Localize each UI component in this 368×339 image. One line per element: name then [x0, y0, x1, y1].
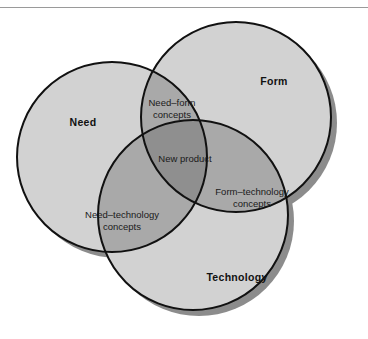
region-label-need-form-line2: concepts: [153, 109, 191, 120]
region-label-need-form: Need–form concepts: [149, 97, 196, 120]
region-label-form-technology-line1: Form–technology: [215, 186, 289, 197]
venn-diagram-figure: Need Form Technology Need–form concepts …: [0, 0, 368, 339]
venn-diagram-graphic: Need Form Technology Need–form concepts …: [0, 0, 368, 339]
region-label-need-form-line1: Need–form: [149, 97, 196, 108]
region-label-center: New product: [158, 153, 212, 164]
region-label-center-line1: New product: [158, 153, 212, 164]
region-label-need-technology-line1: Need–technology: [85, 209, 159, 220]
set-label-technology: Technology: [206, 271, 267, 283]
set-label-need: Need: [70, 116, 97, 128]
region-label-need-technology-line2: concepts: [103, 221, 141, 232]
set-label-form: Form: [260, 75, 287, 87]
region-label-form-technology-line2: concepts: [233, 198, 271, 209]
